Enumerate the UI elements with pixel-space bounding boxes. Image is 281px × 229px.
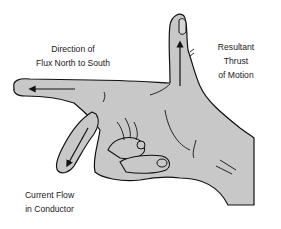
thumbnail xyxy=(179,19,186,35)
current-label-line-2: in Conductor xyxy=(12,202,87,216)
thrust-label-line-2: Thrust xyxy=(205,54,267,68)
thrust-label-line-1: Resultant xyxy=(205,40,267,54)
thrust-label: Resultant Thrust of Motion xyxy=(205,40,267,82)
middle-finger-shape xyxy=(56,112,98,173)
left-hand-rule-diagram: Direction of Flux North to South Resulta… xyxy=(0,0,281,229)
flux-direction-label: Direction of Flux North to South xyxy=(18,42,128,70)
fingernail-curled-2 xyxy=(137,141,145,149)
flux-label-line-1: Direction of xyxy=(18,42,128,56)
current-flow-label: Current Flow in Conductor xyxy=(12,188,87,216)
fingernail-curled xyxy=(157,159,167,167)
thrust-label-line-3: of Motion xyxy=(205,68,267,82)
current-label-line-1: Current Flow xyxy=(12,188,87,202)
flux-label-line-2: Flux North to South xyxy=(18,56,128,70)
